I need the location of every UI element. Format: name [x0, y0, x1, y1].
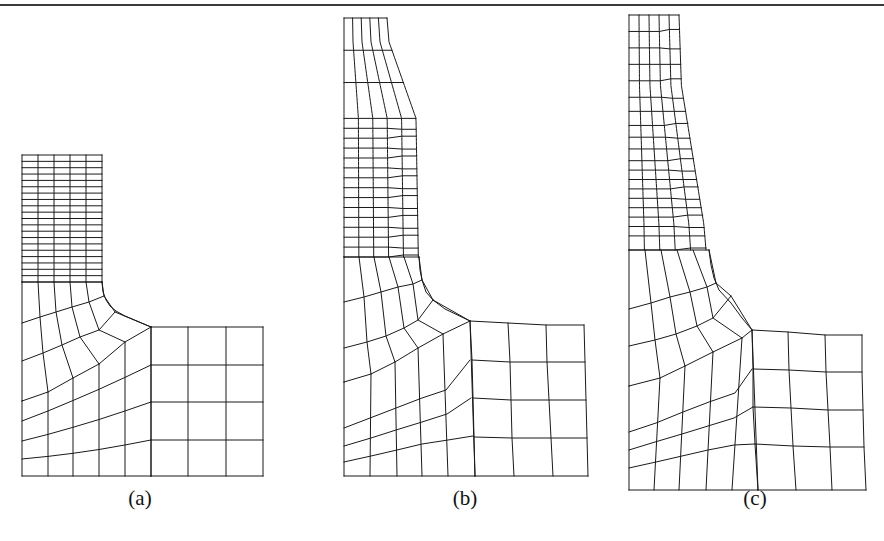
caption-a: (a): [128, 486, 151, 511]
mesh-panel-b: [344, 18, 588, 476]
caption-c: (c): [743, 486, 766, 511]
caption-b: (b): [453, 486, 478, 511]
mesh-panel-a: [22, 155, 263, 476]
mesh-panel-c: [629, 15, 866, 490]
mesh-figure: [0, 0, 884, 541]
